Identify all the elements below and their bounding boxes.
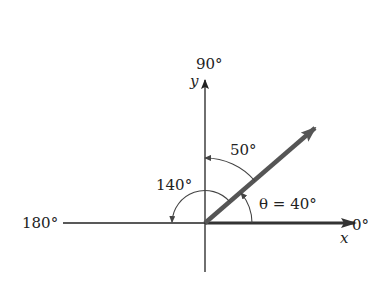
theta-arc (241, 193, 252, 223)
label-0-degrees: 0° (352, 216, 369, 234)
label-90-degrees: 90° (196, 55, 223, 73)
theta-angle-label: θ = 40° (259, 195, 317, 213)
complement-angle-label: 50° (230, 141, 257, 159)
complement-arc (205, 158, 255, 181)
label-180-degrees: 180° (22, 214, 58, 232)
x-axis-label: x (340, 229, 349, 247)
vector-angle-diagram: 90° y 180° 0° x 50° 140° θ = 40° (0, 0, 385, 283)
supplement-angle-label: 140° (156, 176, 192, 194)
y-axis-label: y (189, 72, 199, 90)
